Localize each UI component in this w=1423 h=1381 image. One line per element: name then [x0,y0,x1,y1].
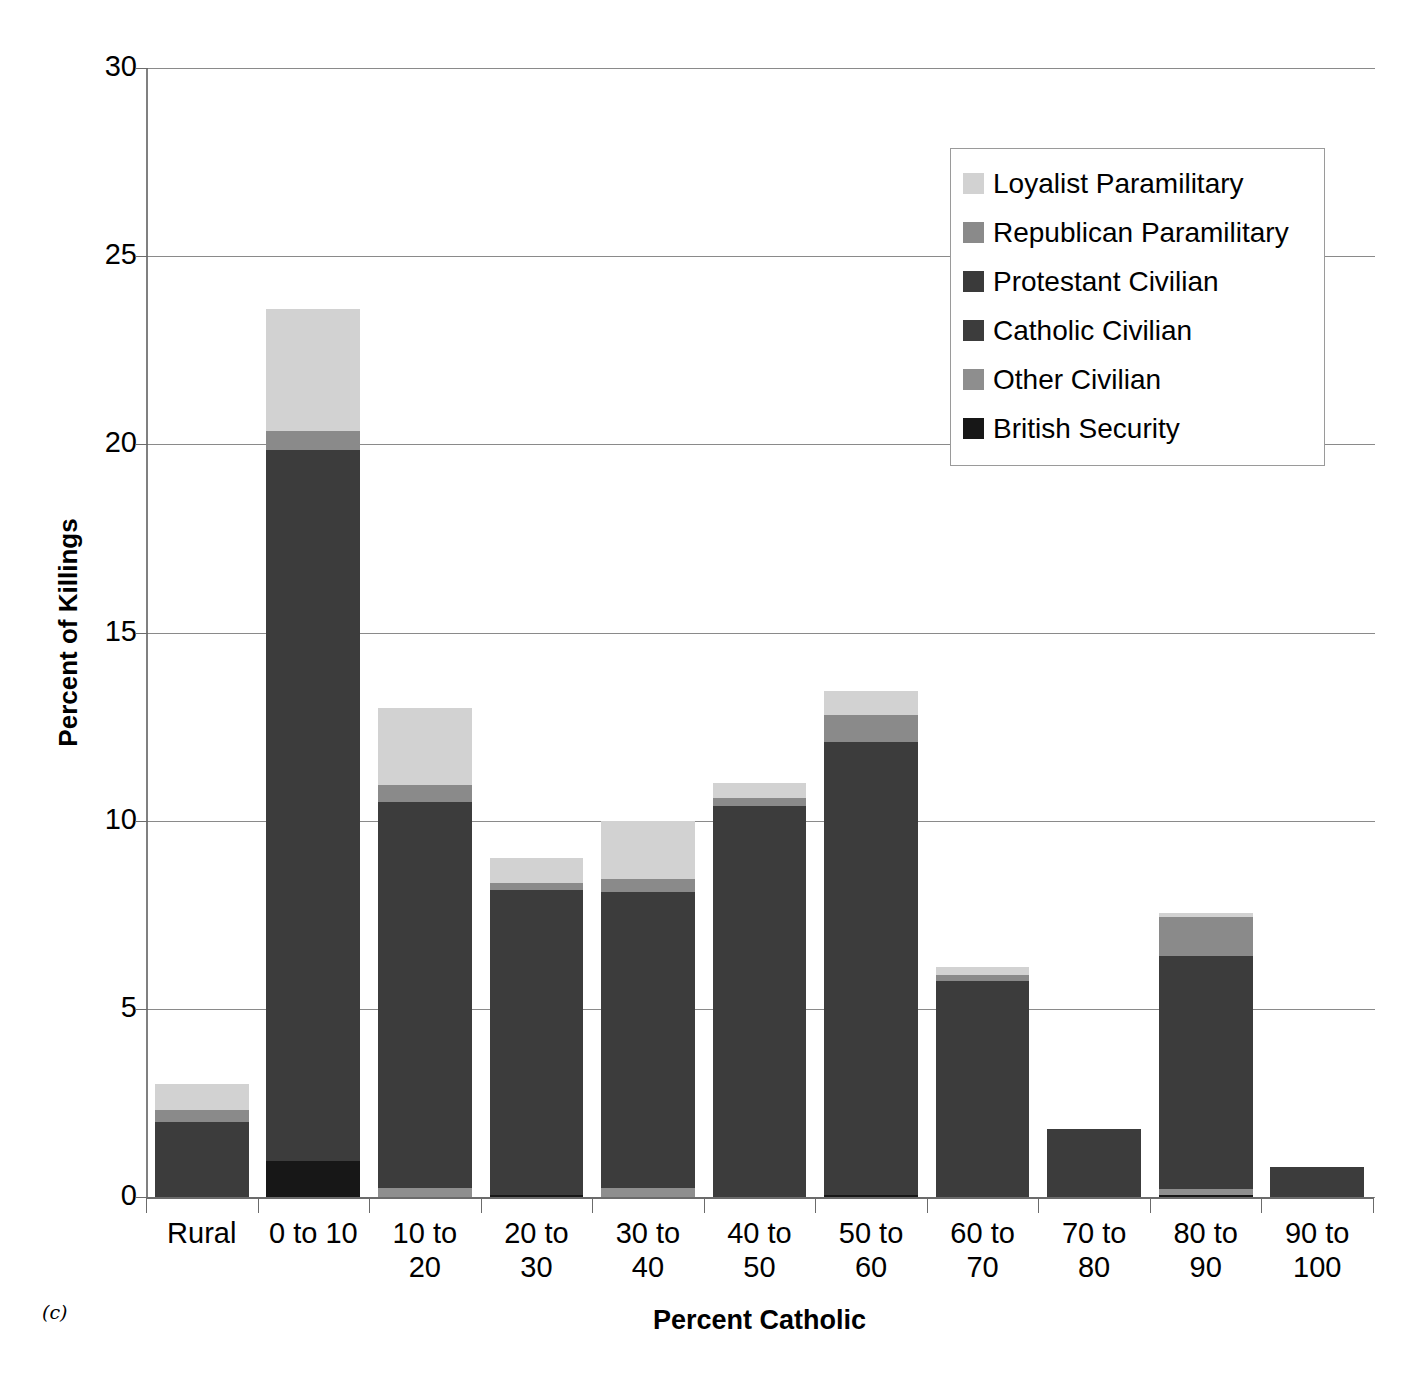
stacked-bar[interactable] [936,967,1030,1197]
bar-segment[interactable] [378,785,472,802]
bar-segment[interactable] [155,1110,249,1121]
chart-legend: Loyalist ParamilitaryRepublican Paramili… [950,148,1325,466]
legend-swatch-icon [963,418,984,439]
bar-segment[interactable] [266,450,360,1161]
x-tick-mark [258,1199,259,1213]
chart-figure: Percent of Killings 051015202530 Rural0 … [0,0,1423,1381]
x-tick-label-line: 60 to [927,1216,1039,1250]
bar-segment[interactable] [824,1195,918,1197]
bar-segment[interactable] [601,821,695,879]
bar-segment[interactable] [713,783,807,798]
stacked-bar[interactable] [713,783,807,1197]
bar-segment[interactable] [490,890,584,1195]
stacked-bar[interactable] [1159,913,1253,1197]
x-tick-label: 50 to60 [815,1216,927,1284]
x-tick-label: 10 to20 [369,1216,481,1284]
x-tick-label-line: 20 [369,1250,481,1284]
legend-item[interactable]: Republican Paramilitary [963,208,1310,257]
bar-segment[interactable] [601,892,695,1187]
bar-segment[interactable] [936,967,1030,975]
x-tick-mark [1261,1199,1262,1213]
stacked-bar[interactable] [378,708,472,1197]
stacked-bar[interactable] [490,858,584,1197]
x-tick-label-line: 80 to [1150,1216,1262,1250]
legend-label: Catholic Civilian [993,315,1192,347]
x-tick-mark [1373,1199,1374,1213]
stacked-bar[interactable] [1270,1167,1364,1197]
stacked-bar[interactable] [601,821,695,1197]
bar-segment[interactable] [490,1195,584,1197]
legend-item[interactable]: British Security [963,404,1310,453]
bar-slot [481,68,593,1197]
x-tick-label-line: 50 [704,1250,816,1284]
x-tick-label-line: 90 [1150,1250,1262,1284]
x-tick-label: Rural [146,1216,258,1250]
bar-segment[interactable] [936,981,1030,1197]
bar-segment[interactable] [378,708,472,785]
bar-segment[interactable] [378,802,472,1188]
bar-segment[interactable] [1159,1195,1253,1197]
legend-swatch-icon [963,173,984,194]
bar-slot [704,68,816,1197]
x-tick-mark [815,1199,816,1213]
bar-segment[interactable] [824,691,918,715]
bar-segment[interactable] [713,806,807,1197]
y-tick-label-25: 25 [75,240,137,269]
bar-segment[interactable] [266,1161,360,1197]
bar-segment[interactable] [824,742,918,1195]
bar-segment[interactable] [378,1188,472,1197]
legend-swatch-icon [963,369,984,390]
bar-segment[interactable] [601,879,695,892]
x-tick-label: 80 to90 [1150,1216,1262,1284]
x-tick-label: 40 to50 [704,1216,816,1284]
x-tick-mark [592,1199,593,1213]
bar-segment[interactable] [1270,1167,1364,1197]
x-tick-label-line: 80 [1038,1250,1150,1284]
bar-segment[interactable] [155,1122,249,1197]
bar-segment[interactable] [1159,917,1253,957]
x-tick-mark [1150,1199,1151,1213]
x-tick-label-line: 90 to [1261,1216,1373,1250]
bar-segment[interactable] [266,309,360,431]
stacked-bar[interactable] [1047,1129,1141,1197]
x-tick-mark [369,1199,370,1213]
legend-item[interactable]: Protestant Civilian [963,257,1310,306]
y-axis-tick-labels: 051015202530 [75,0,137,1381]
bar-segment[interactable] [1047,1129,1141,1197]
bar-slot [146,68,258,1197]
x-tick-label-line: 60 [815,1250,927,1284]
bar-segment[interactable] [713,798,807,806]
bar-segment[interactable] [1159,956,1253,1189]
legend-item[interactable]: Loyalist Paramilitary [963,159,1310,208]
stacked-bar[interactable] [266,309,360,1197]
x-tick-label-line: 50 to [815,1216,927,1250]
legend-label: British Security [993,413,1180,445]
x-tick-label-line: 10 to [369,1216,481,1250]
bar-segment[interactable] [490,858,584,882]
stacked-bar[interactable] [155,1084,249,1197]
legend-swatch-icon [963,271,984,292]
x-tick-label-line: 100 [1261,1250,1373,1284]
x-tick-mark [704,1199,705,1213]
x-tick-label: 70 to80 [1038,1216,1150,1284]
x-tick-mark [927,1199,928,1213]
y-tick-label-0: 0 [75,1181,137,1210]
legend-swatch-icon [963,222,984,243]
legend-item[interactable]: Catholic Civilian [963,306,1310,355]
bar-segment[interactable] [266,431,360,450]
legend-item[interactable]: Other Civilian [963,355,1310,404]
stacked-bar[interactable] [824,691,918,1197]
y-tick-label-5: 5 [75,993,137,1022]
x-tick-label-line: 30 to [592,1216,704,1250]
bar-segment[interactable] [601,1188,695,1197]
panel-label: (c) [42,1301,67,1323]
bar-segment[interactable] [824,715,918,741]
x-tick-label-line: 30 [481,1250,593,1284]
y-tick-label-30: 30 [75,52,137,81]
y-tick-label-15: 15 [75,617,137,646]
x-tick-label-line: 40 to [704,1216,816,1250]
x-tick-label: 20 to30 [481,1216,593,1284]
x-tick-mark [1038,1199,1039,1213]
bar-segment[interactable] [490,883,584,891]
bar-segment[interactable] [155,1084,249,1110]
